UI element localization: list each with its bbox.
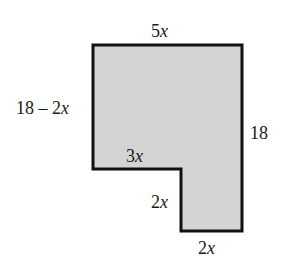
l-shape-diagram: 5x 18 – 2x 18 3x 2x 2x bbox=[0, 0, 282, 270]
expression: 18 – 2 bbox=[16, 98, 61, 118]
label-bottom-width: 2x bbox=[198, 239, 215, 257]
variable: x bbox=[160, 192, 168, 212]
coef: 2 bbox=[198, 238, 207, 258]
value: 18 bbox=[250, 123, 268, 143]
variable: x bbox=[61, 98, 69, 118]
coef: 5 bbox=[151, 21, 160, 41]
coef: 3 bbox=[126, 146, 135, 166]
label-inner-vertical: 2x bbox=[151, 193, 168, 211]
coef: 2 bbox=[151, 192, 160, 212]
variable: x bbox=[160, 21, 168, 41]
label-top-width: 5x bbox=[151, 22, 168, 40]
variable: x bbox=[135, 146, 143, 166]
label-inner-horizontal: 3x bbox=[126, 147, 143, 165]
shape-svg bbox=[0, 0, 282, 270]
label-right-height: 18 bbox=[250, 124, 268, 142]
label-left-height: 18 – 2x bbox=[16, 99, 69, 117]
variable: x bbox=[207, 238, 215, 258]
